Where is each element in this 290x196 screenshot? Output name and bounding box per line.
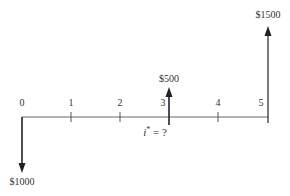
period-label-5: 5 [259, 97, 264, 108]
amount-label-500: $500 [159, 73, 179, 84]
cash-flow-diagram: 0 1 2 3 4 5 $1000 $500 $1500 i* = ? [0, 0, 290, 196]
period-label-1: 1 [69, 97, 74, 108]
cash-flow-period-0: $1000 [10, 117, 35, 187]
period-labels: 0 1 2 3 4 5 [20, 97, 264, 108]
amount-label-1500: $1500 [256, 9, 281, 20]
diagram-canvas: 0 1 2 3 4 5 $1000 $500 $1500 i* = ? [0, 0, 290, 196]
arrowhead-up-icon [265, 26, 272, 36]
period-label-4: 4 [216, 97, 221, 108]
arrowhead-down-icon [19, 163, 26, 173]
period-label-3: 3 [161, 97, 166, 108]
period-label-2: 2 [118, 97, 123, 108]
rate-of-return-label: i* = ? [143, 125, 167, 138]
rate-unknown: = ? [150, 126, 167, 138]
amount-label-1000: $1000 [10, 176, 35, 187]
period-label-0: 0 [20, 97, 25, 108]
arrowhead-up-icon [166, 87, 173, 97]
